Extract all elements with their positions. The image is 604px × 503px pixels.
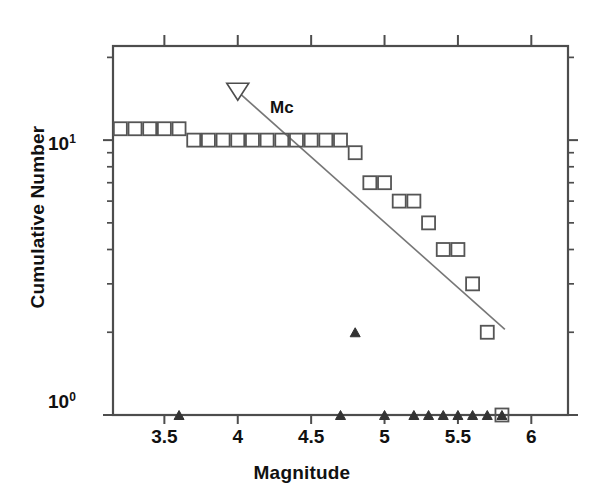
mc-annotation-label: Mc — [270, 98, 294, 118]
data-point-triangle — [350, 328, 360, 337]
y-tick-mantissa-upper: 10 — [48, 133, 69, 154]
data-point-square — [378, 176, 391, 189]
data-point-square — [437, 243, 450, 256]
gutenberg-richter-fit-line — [238, 92, 505, 330]
plot-frame — [113, 46, 568, 415]
data-point-square — [129, 122, 142, 135]
y-tick-label-10e0: 100 — [48, 390, 76, 413]
data-point-square — [231, 134, 244, 147]
x-tick-label: 5 — [379, 426, 390, 448]
y-axis-title: Cumulative Number — [27, 87, 49, 347]
data-point-square — [363, 176, 376, 189]
data-point-square — [305, 134, 318, 147]
y-tick-exponent-upper: 1 — [69, 132, 76, 146]
y-tick-mantissa-lower: 10 — [48, 391, 69, 412]
x-axis-title: Magnitude — [0, 462, 604, 484]
data-point-square — [114, 122, 127, 135]
x-tick-label: 6 — [526, 426, 537, 448]
frequency-magnitude-chart: 101 100 Mc Magnitude Cumulative Number 3… — [0, 0, 604, 503]
x-tick-label: 4.5 — [298, 426, 324, 448]
data-point-square — [217, 134, 230, 147]
x-tick-label: 4 — [232, 426, 243, 448]
data-point-square — [334, 134, 347, 147]
data-point-square — [466, 277, 479, 290]
data-point-square — [451, 243, 464, 256]
data-point-square — [393, 195, 406, 208]
data-point-square — [319, 134, 332, 147]
data-point-square — [187, 134, 200, 147]
data-point-square — [481, 326, 494, 339]
x-tick-label: 3.5 — [151, 426, 177, 448]
data-point-square — [407, 195, 420, 208]
data-point-square — [202, 134, 215, 147]
data-point-square — [143, 122, 156, 135]
data-point-square — [158, 122, 171, 135]
data-point-square — [246, 134, 259, 147]
y-tick-exponent-lower: 0 — [69, 390, 76, 404]
data-point-square — [422, 216, 435, 229]
data-point-square — [349, 146, 362, 159]
x-tick-label: 5.5 — [445, 426, 471, 448]
data-point-square — [261, 134, 274, 147]
data-point-square — [173, 122, 186, 135]
y-tick-label-10e1: 101 — [48, 132, 76, 155]
